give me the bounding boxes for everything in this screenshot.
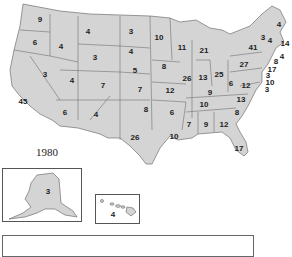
state-votes-ma: 14 (281, 39, 290, 48)
state-votes-mi: 21 (200, 46, 209, 55)
legend-box (2, 235, 254, 257)
map-year-label: 1980 (36, 146, 58, 158)
state-votes-ny: 41 (249, 43, 258, 52)
state-votes-ia: 8 (162, 62, 166, 71)
state-votes-mo: 12 (166, 86, 175, 95)
state-votes-dc: 3 (265, 85, 269, 94)
state-votes-nd: 3 (129, 27, 133, 36)
state-votes-id: 4 (59, 42, 63, 51)
state-votes-vt: 3 (261, 33, 265, 42)
state-votes-ri: 4 (280, 52, 284, 61)
state-votes-mt: 4 (86, 27, 90, 36)
state-votes-co: 7 (101, 81, 105, 90)
state-votes-az: 6 (63, 108, 67, 117)
state-votes-pa: 27 (240, 60, 249, 69)
state-votes-mn: 10 (155, 33, 164, 42)
alaska-votes: 3 (46, 187, 50, 196)
state-votes-wy: 3 (93, 53, 97, 62)
state-votes-nv: 3 (43, 70, 47, 79)
state-votes-ky: 9 (208, 88, 212, 97)
state-votes-al: 9 (204, 120, 208, 129)
state-votes-sd: 4 (129, 47, 133, 56)
state-votes-me: 4 (277, 20, 281, 29)
state-votes-wv: 6 (229, 79, 233, 88)
state-votes-la: 10 (170, 132, 179, 141)
state-votes-wa: 9 (38, 15, 42, 24)
state-votes-sc: 8 (235, 108, 239, 117)
hawaii-shape (96, 195, 139, 223)
state-votes-ne: 5 (133, 66, 137, 75)
state-votes-in: 13 (199, 73, 208, 82)
alaska-shape (3, 169, 81, 221)
state-votes-ms: 7 (187, 120, 191, 129)
state-votes-wi: 11 (178, 43, 186, 52)
alaska-inset: 3 (2, 168, 82, 222)
state-votes-ok: 8 (144, 105, 148, 114)
state-votes-nc: 13 (237, 95, 246, 104)
state-votes-ar: 6 (170, 108, 174, 117)
state-votes-ks: 7 (138, 85, 142, 94)
state-votes-or: 6 (33, 38, 37, 47)
hawaii-votes: 4 (111, 210, 115, 219)
state-votes-oh: 25 (215, 70, 224, 79)
state-votes-nh: 4 (268, 36, 272, 45)
state-votes-ca: 45 (19, 97, 28, 106)
state-votes-ut: 4 (70, 76, 74, 85)
state-votes-il: 26 (183, 74, 192, 83)
state-votes-tn: 10 (200, 100, 209, 109)
state-votes-va: 12 (242, 81, 251, 90)
state-votes-nm: 4 (94, 110, 98, 119)
state-votes-fl: 17 (235, 144, 244, 153)
hawaii-inset: 4 (95, 194, 140, 224)
state-votes-ga: 12 (220, 120, 229, 129)
state-votes-tx: 26 (131, 133, 140, 142)
